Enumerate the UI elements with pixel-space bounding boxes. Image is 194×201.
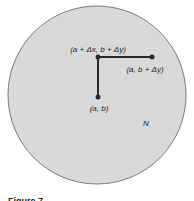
point-a-b xyxy=(96,95,101,100)
label-a-b: (a, b) xyxy=(90,104,109,113)
figure-caption: Figure 7 xyxy=(8,196,43,201)
point-a-dx-b-dy xyxy=(150,55,155,60)
label-a-dx-b-dy: (a, b + Δy) xyxy=(126,65,163,74)
region-label: N xyxy=(143,119,149,128)
point-a-b-dy xyxy=(96,55,101,60)
diagram-canvas: (a + Δx, b + Δy) (a, b + Δy) (a, b) N Fi… xyxy=(0,0,194,201)
label-a-b-dy: (a + Δx, b + Δy) xyxy=(70,45,126,54)
